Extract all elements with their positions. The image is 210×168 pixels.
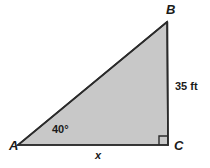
- angle-measure-label-a: 40°: [52, 124, 69, 135]
- vertex-label-b: B: [166, 3, 175, 16]
- geometry-figure: A B C 35 ft x 40°: [0, 0, 210, 168]
- vertex-label-c: C: [174, 139, 183, 152]
- side-length-label-ac: x: [95, 150, 101, 161]
- side-bc-vertical-leg: [167, 22, 168, 145]
- vertex-label-a: A: [9, 139, 18, 152]
- side-length-label-bc: 35 ft: [175, 81, 198, 92]
